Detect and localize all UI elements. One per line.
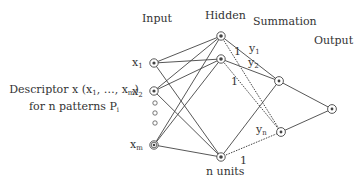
- descriptor-line2-sub: i: [117, 106, 119, 114]
- layer-title-hidden: Hidden: [205, 10, 246, 21]
- descriptor-line1-mid: , …, x: [97, 83, 128, 96]
- summation-node-1: [275, 77, 284, 86]
- hidden-node-n: [217, 153, 225, 161]
- output-node: [328, 105, 337, 114]
- input-label-x2: x2: [132, 86, 143, 99]
- weight-label-one-top: 1: [234, 46, 241, 57]
- summation-node-n: [277, 128, 286, 137]
- input-node-x1: [150, 59, 158, 67]
- hidden-node-1: [217, 32, 225, 40]
- input-label-xm: xm: [130, 139, 143, 152]
- ellipsis-circles: [153, 101, 157, 125]
- weight-label-y1: y1: [249, 43, 260, 56]
- input-node-xm: [150, 141, 158, 149]
- weight-label-y2: y2: [248, 57, 259, 70]
- summation-nodes: [275, 77, 286, 137]
- layer-title-input: Input: [142, 13, 172, 24]
- input-nodes: [150, 59, 158, 149]
- weight-label-yn: yn: [256, 124, 267, 137]
- hidden-node-2: [217, 55, 225, 63]
- weight-label-one-middle: 1: [231, 76, 238, 87]
- descriptor-line2-prefix: for n patterns P: [29, 100, 117, 113]
- descriptor-caption: Descriptor x (x1, …, xm) for n patterns …: [4, 83, 144, 117]
- input-node-x2: [150, 87, 158, 95]
- hidden-nodes: [217, 32, 225, 161]
- layer-title-summation: Summation: [253, 16, 317, 27]
- descriptor-line1-prefix: Descriptor x (x: [9, 83, 92, 96]
- input-label-x1: x1: [132, 57, 143, 70]
- layer-title-output: Output: [314, 35, 353, 46]
- connections: [154, 36, 332, 157]
- hidden-units-caption: n units: [206, 166, 244, 177]
